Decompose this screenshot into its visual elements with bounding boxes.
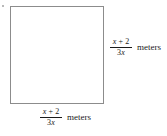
side-label-right: x + 2 3x meters — [110, 38, 161, 57]
unit-label-right: meters — [137, 43, 161, 52]
fraction-bottom: x + 2 3x — [40, 108, 62, 127]
fraction-numerator-right: x + 2 — [111, 38, 132, 46]
geometry-figure: x + 2 3x meters x + 2 3x meters — [0, 0, 167, 136]
unit-label-bottom: meters — [67, 113, 91, 122]
square-shape — [10, 6, 104, 104]
side-label-bottom: x + 2 3x meters — [40, 108, 91, 127]
fraction-right: x + 2 3x — [110, 38, 132, 57]
fraction-denominator-bottom: 3x — [45, 119, 57, 127]
fraction-numerator-bottom: x + 2 — [41, 108, 62, 116]
bullet-marker-icon — [2, 5, 4, 7]
fraction-denominator-right: 3x — [115, 49, 127, 57]
